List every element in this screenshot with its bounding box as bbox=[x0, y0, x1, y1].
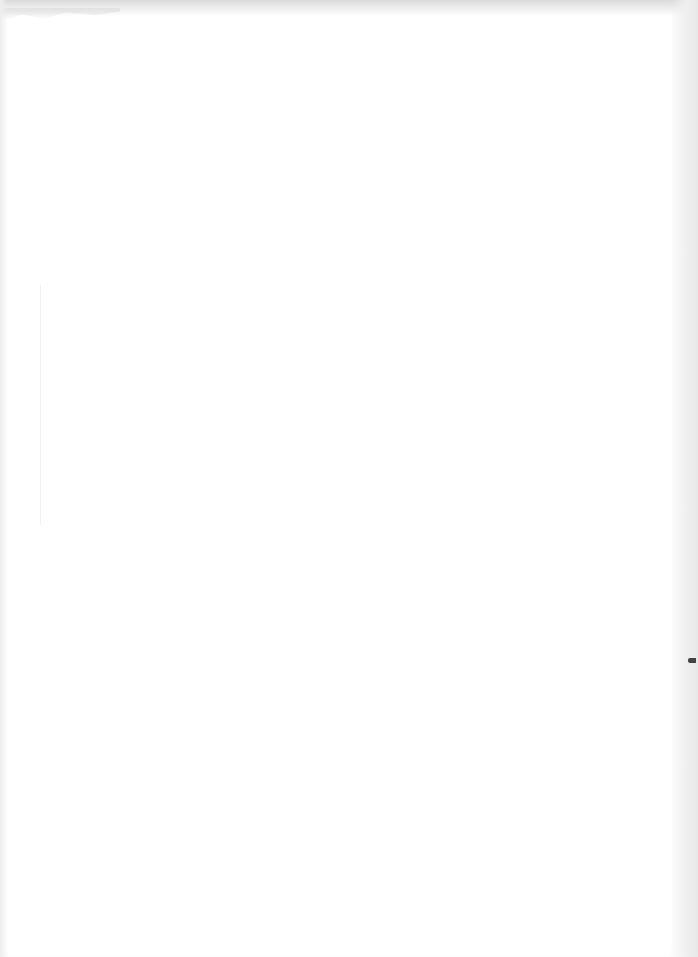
scan-speck-mark bbox=[688, 658, 696, 663]
page-left-edge bbox=[0, 0, 8, 957]
blank-page bbox=[2, 10, 672, 955]
scanned-page-image bbox=[0, 0, 698, 957]
page-right-shadow bbox=[670, 0, 698, 957]
faint-scan-line bbox=[40, 285, 41, 525]
